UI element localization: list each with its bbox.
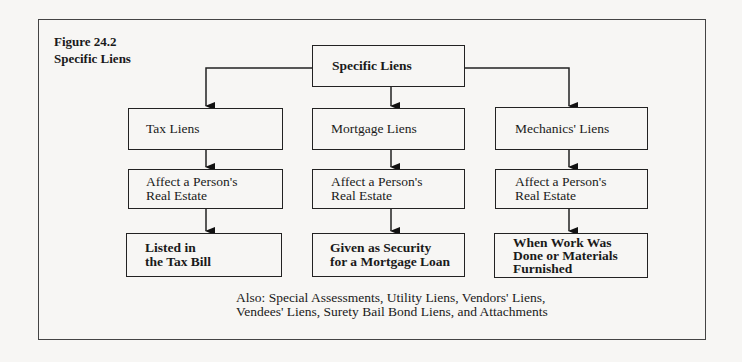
- detail-label: Listed in the Tax Bill: [145, 241, 211, 269]
- affects-label: Affect a Person's Real Estate: [146, 175, 237, 203]
- detail-label: When Work Was Done or Materials Furnishe…: [513, 236, 618, 275]
- type-label: Tax Liens: [146, 122, 199, 136]
- detail-label: Given as Security for a Mortgage Loan: [330, 241, 450, 269]
- affects-box-mortgage: Affect a Person's Real Estate: [312, 169, 465, 209]
- affects-label: Affect a Person's Real Estate: [331, 175, 422, 203]
- affects-box-tax: Affect a Person's Real Estate: [128, 169, 283, 209]
- root-label: Specific Liens: [332, 59, 412, 73]
- type-box-mortgage-liens: Mortgage Liens: [312, 108, 465, 150]
- detail-box-mechanics: When Work Was Done or Materials Furnishe…: [494, 233, 648, 278]
- detail-box-mortgage: Given as Security for a Mortgage Loan: [312, 233, 465, 277]
- affects-label: Affect a Person's Real Estate: [515, 175, 606, 203]
- affects-box-mechanics: Affect a Person's Real Estate: [495, 169, 648, 209]
- footnote-also: Also: Special Assessments, Utility Liens…: [236, 291, 548, 319]
- type-label: Mechanics' Liens: [515, 122, 609, 136]
- detail-box-tax: Listed in the Tax Bill: [126, 233, 282, 277]
- type-box-tax-liens: Tax Liens: [128, 108, 283, 150]
- type-box-mechanics-liens: Mechanics' Liens: [495, 107, 648, 150]
- root-box-specific-liens: Specific Liens: [312, 45, 465, 87]
- type-label: Mortgage Liens: [331, 122, 417, 136]
